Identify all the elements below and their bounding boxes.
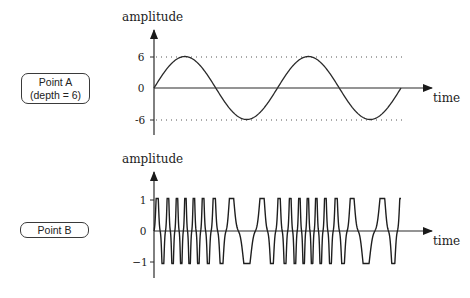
tick-6: 6 — [138, 51, 145, 63]
point-a-depth: (depth = 6) — [22, 89, 89, 102]
tick-0: 0 — [138, 82, 145, 94]
tick-neg1: −1 — [132, 256, 147, 268]
diagram-canvas: amplitude time 6 0 -6 amplitude time 1 0… — [0, 0, 470, 298]
tick-1: 1 — [140, 194, 147, 206]
y-axis-label-b: amplitude — [122, 152, 183, 166]
tick-0-b: 0 — [140, 225, 147, 237]
chart-point-a: amplitude time 6 0 -6 — [122, 10, 460, 135]
point-a-title: Point A — [22, 76, 89, 89]
point-b-label-box: Point B — [20, 222, 89, 238]
point-a-label-box: Point A (depth = 6) — [21, 73, 90, 104]
x-axis-label-b: time — [433, 234, 460, 248]
y-axis-label-a: amplitude — [122, 10, 183, 24]
tick-neg6: -6 — [135, 114, 146, 126]
x-axis-label-a: time — [433, 91, 460, 105]
point-b-title: Point B — [21, 224, 88, 237]
chart-point-b: amplitude time 1 0 −1 — [122, 152, 460, 278]
